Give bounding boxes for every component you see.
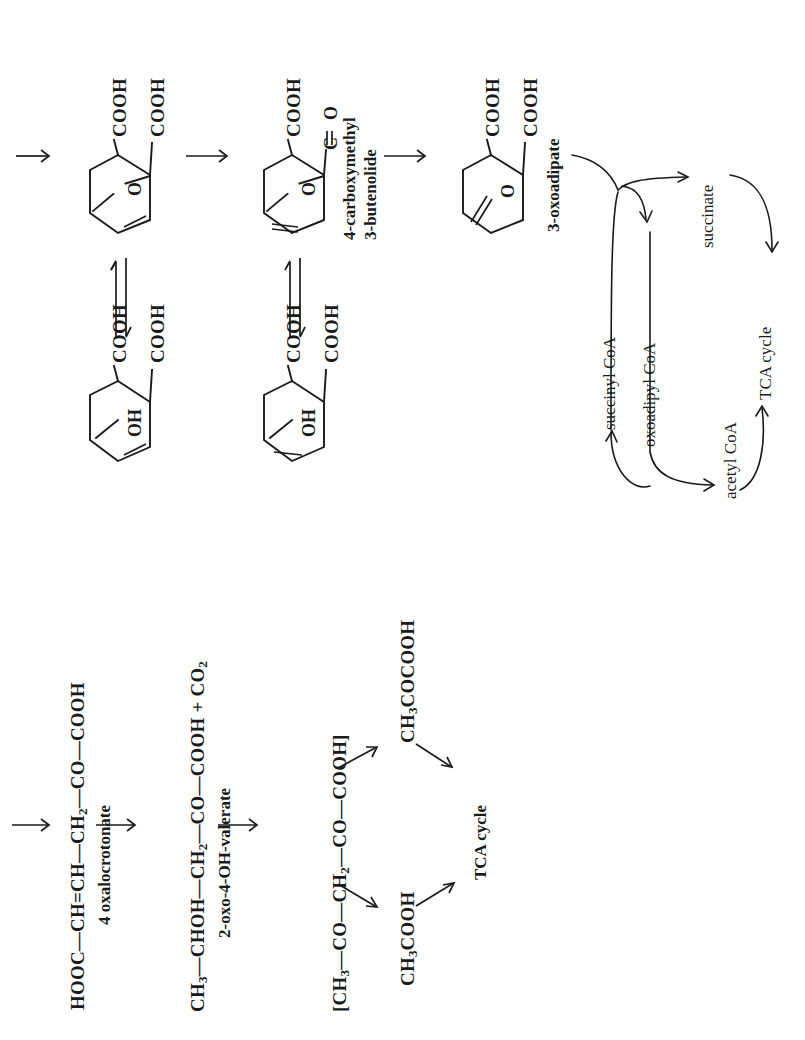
entry-arrow-lower xyxy=(12,819,49,831)
arrow-pyruvate-to-tca xyxy=(416,744,452,767)
formula-bracketed-intermediate: [CH3—CO—CH2—CO—COOH] xyxy=(330,734,352,1012)
formula-oxalocrotonate: HOOC—CH=CH—CH2—CO—COOH xyxy=(68,682,90,1010)
lower-pathway-lines xyxy=(0,0,805,1040)
caption-oxo-oh-valerate: 2-oxo-4-OH-valerate xyxy=(216,788,233,938)
formula-oxo-oh-valerate: CH3—CHOH—CH2—CO—COOH + CO2 xyxy=(188,661,210,1012)
caption-oxalocrotonate: 4 oxalocrotonate xyxy=(96,805,113,925)
figure-canvas: COOH COOH O COOH C O O COOH COOH O COOH … xyxy=(0,0,805,1040)
node-tca-cycle-lower: TCA cycle xyxy=(472,805,489,880)
product-acetate: CH3COOH xyxy=(398,892,420,986)
product-pyruvate: CH3COCOOH xyxy=(398,620,420,743)
arrow-acetate-to-tca xyxy=(416,883,454,906)
